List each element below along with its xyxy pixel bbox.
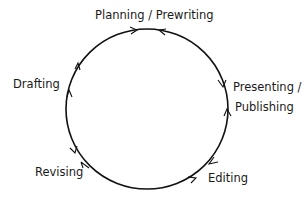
stage-planning: Planning / Prewriting <box>95 5 214 25</box>
stage-editing: Editing <box>208 168 248 188</box>
arrow-icon <box>159 29 166 35</box>
stage-presenting-line1: Presenting / <box>233 77 301 97</box>
stage-revising: Revising <box>35 162 83 182</box>
stage-drafting: Drafting <box>13 74 60 94</box>
stage-presenting-line2: Publishing <box>235 97 294 117</box>
cycle-circle <box>66 29 228 189</box>
